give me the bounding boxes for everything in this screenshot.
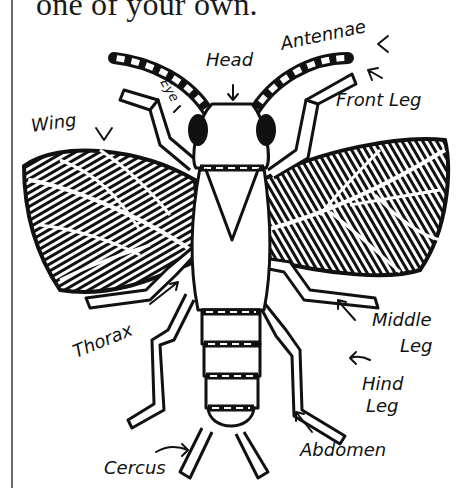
thorax bbox=[192, 168, 270, 310]
head bbox=[188, 104, 276, 168]
label-middle-leg-2: Leg bbox=[400, 335, 433, 356]
label-hind-leg-1: Hind bbox=[362, 373, 404, 394]
label-hind-leg-2: Leg bbox=[366, 395, 399, 416]
label-abdomen: Abdomen bbox=[299, 439, 386, 460]
cerci bbox=[180, 428, 268, 478]
label-middle-leg-1: Middle bbox=[372, 309, 431, 330]
left-eye bbox=[188, 114, 208, 146]
insect-diagram: Head Antennae Eye Front Leg Wing Thorax … bbox=[0, 0, 456, 494]
label-head: Head bbox=[206, 49, 254, 70]
right-eye bbox=[256, 114, 276, 146]
label-cercus: Cercus bbox=[104, 457, 166, 478]
abdomen bbox=[202, 310, 260, 426]
label-wing: Wing bbox=[30, 109, 78, 136]
label-thorax: Thorax bbox=[70, 319, 136, 362]
label-antennae: Antennae bbox=[277, 15, 367, 54]
label-front-leg: Front Leg bbox=[336, 89, 421, 110]
